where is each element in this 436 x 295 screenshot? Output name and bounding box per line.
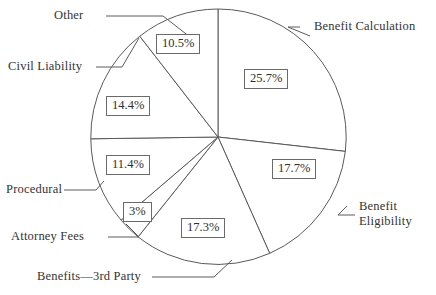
pie-value-benefit-eligibility: 17.7% <box>272 159 316 179</box>
pie-chart: Other Civil Liability Procedural Attorne… <box>0 0 436 295</box>
pie-value-procedural: 11.4% <box>106 155 150 175</box>
pie-value-benefits-3rd-party: 17.3% <box>181 218 225 238</box>
pie-label-benefit-calculation: Benefit Calculation <box>314 19 415 33</box>
pie-value-civil-liability: 14.4% <box>106 96 150 116</box>
pie-label-other: Other <box>54 8 83 22</box>
pie-label-attorney-fees: Attorney Fees <box>11 229 84 243</box>
pie-value-benefit-calculation: 25.7% <box>244 69 288 89</box>
pie-label-benefit-eligibility-line1: Benefit <box>359 199 397 213</box>
pie-label-civil-liability: Civil Liability <box>8 59 82 73</box>
pie-chart-canvas <box>0 0 436 295</box>
pie-label-procedural: Procedural <box>6 182 62 196</box>
pie-label-benefits-3rd-party: Benefits—3rd Party <box>37 269 141 283</box>
pie-label-benefit-eligibility-line2: Eligibility <box>359 214 412 228</box>
pie-value-other: 10.5% <box>156 34 200 54</box>
leader-line-procedural <box>64 181 104 190</box>
pie-value-attorney-fees: 3% <box>123 202 152 222</box>
leader-line-benefit-eligibility <box>338 206 355 215</box>
